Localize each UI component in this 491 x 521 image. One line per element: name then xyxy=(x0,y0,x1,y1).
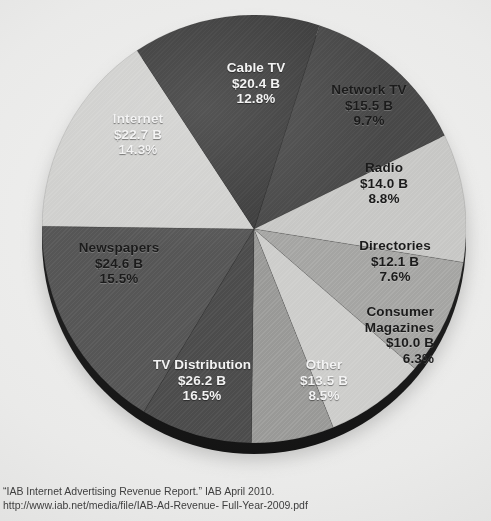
slice-name-directories: Directories xyxy=(337,238,453,254)
slice-name-internet: Internet xyxy=(83,111,193,127)
slice-value-tv-distribution: $26.2 B xyxy=(133,373,271,389)
pie-chart: Cable TV $20.4 B 12.8% Network TV $15.5 … xyxy=(0,0,491,475)
slice-percent-tv-distribution: 16.5% xyxy=(133,388,271,404)
slice-percent-newspapers: 15.5% xyxy=(57,271,181,287)
slice-percent-directories: 7.6% xyxy=(337,269,453,285)
slice-name-network-tv: Network TV xyxy=(310,82,428,98)
slice-value-consumer-magazines: $10.0 B xyxy=(318,335,434,351)
slice-value-radio: $14.0 B xyxy=(331,176,437,192)
slice-label-tv-distribution: TV Distribution $26.2 B 16.5% xyxy=(133,357,271,404)
source-line-1: “IAB Internet Advertising Revenue Report… xyxy=(3,484,473,498)
slice-name-cable-tv: Cable TV xyxy=(194,60,318,76)
slice-value-cable-tv: $20.4 B xyxy=(194,76,318,92)
slice-label-network-tv: Network TV $15.5 B 9.7% xyxy=(310,82,428,129)
slice-value-other: $13.5 B xyxy=(278,373,370,389)
slice-value-internet: $22.7 B xyxy=(83,127,193,143)
slice-label-directories: Directories $12.1 B 7.6% xyxy=(337,238,453,285)
slice-percent-cable-tv: 12.8% xyxy=(194,91,318,107)
slice-label-radio: Radio $14.0 B 8.8% xyxy=(331,160,437,207)
slice-label-other: Other $13.5 B 8.5% xyxy=(278,357,370,404)
slice-name-newspapers: Newspapers xyxy=(57,240,181,256)
slice-percent-radio: 8.8% xyxy=(331,191,437,207)
source-citation: “IAB Internet Advertising Revenue Report… xyxy=(3,484,473,513)
slice-label-internet: Internet $22.7 B 14.3% xyxy=(83,111,193,158)
slice-name-consumer-magazines-line2: Magazines xyxy=(318,320,434,336)
slice-label-newspapers: Newspapers $24.6 B 15.5% xyxy=(57,240,181,287)
slice-value-newspapers: $24.6 B xyxy=(57,256,181,272)
slice-name-radio: Radio xyxy=(331,160,437,176)
slice-name-other: Other xyxy=(278,357,370,373)
slice-percent-internet: 14.3% xyxy=(83,142,193,158)
slice-label-cable-tv: Cable TV $20.4 B 12.8% xyxy=(194,60,318,107)
slice-name-tv-distribution: TV Distribution xyxy=(133,357,271,373)
slice-value-network-tv: $15.5 B xyxy=(310,98,428,114)
slice-value-directories: $12.1 B xyxy=(337,254,453,270)
page-background: Cable TV $20.4 B 12.8% Network TV $15.5 … xyxy=(0,0,491,521)
slice-percent-network-tv: 9.7% xyxy=(310,113,428,129)
slice-name-consumer-magazines-line1: Consumer xyxy=(318,304,434,320)
source-line-2: http://www.iab.net/media/file/IAB-Ad-Rev… xyxy=(3,498,473,512)
slice-percent-other: 8.5% xyxy=(278,388,370,404)
